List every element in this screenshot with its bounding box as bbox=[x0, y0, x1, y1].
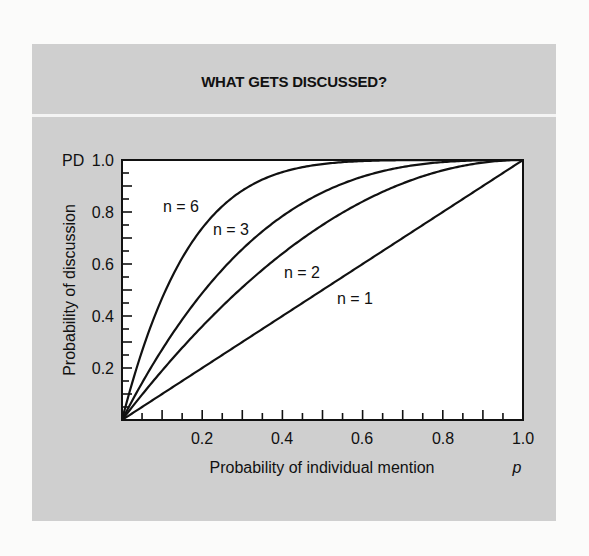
y-tick-label: 0.8 bbox=[92, 204, 114, 221]
curve-label-n2: n = 2 bbox=[284, 264, 320, 281]
x-tick-label: 1.0 bbox=[512, 430, 534, 447]
curve-label-n1: n = 1 bbox=[337, 290, 373, 307]
x-axis-label: Probability of individual mention bbox=[209, 459, 434, 476]
x-tick-label: 0.8 bbox=[432, 430, 454, 447]
curve-label-n6: n = 6 bbox=[163, 198, 199, 215]
y-tick-label: 0.6 bbox=[92, 256, 114, 273]
x-axis-symbol: p bbox=[512, 459, 522, 476]
x-tick-label: 0.4 bbox=[271, 430, 293, 447]
y-tick-label: 0.4 bbox=[92, 308, 114, 325]
y-tick-label: 1.0 bbox=[92, 152, 114, 169]
chart-svg: 1.0 0.8 0.6 0.4 0.2 PD 0.2 0.4 0.6 0.8 1… bbox=[0, 0, 589, 556]
y-axis-label: Probability of discussion bbox=[61, 204, 78, 376]
curve-label-n3: n = 3 bbox=[213, 221, 249, 238]
x-tick-label: 0.6 bbox=[351, 430, 373, 447]
y-axis-symbol: PD bbox=[62, 152, 84, 169]
y-tick-label: 0.2 bbox=[92, 360, 114, 377]
x-tick-label: 0.2 bbox=[191, 430, 213, 447]
